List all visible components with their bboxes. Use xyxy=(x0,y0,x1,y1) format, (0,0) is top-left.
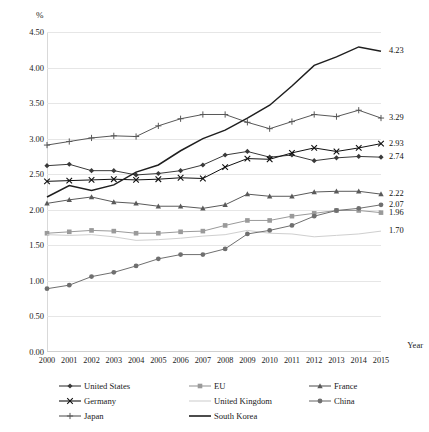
x-axis-tick-label: 2015 xyxy=(373,356,389,365)
data-point xyxy=(356,154,361,159)
x-axis-tick-label: 2011 xyxy=(284,356,300,365)
series-south-korea xyxy=(47,47,381,197)
end-value-label: 2.07 xyxy=(389,200,404,209)
data-point xyxy=(333,114,339,120)
data-point xyxy=(245,218,250,223)
data-point xyxy=(289,119,295,125)
series-eu xyxy=(45,208,384,235)
data-point xyxy=(156,256,161,261)
data-point xyxy=(134,231,139,236)
end-value-label: 3.29 xyxy=(389,113,404,122)
y-axis-tick-label: 2.50 xyxy=(29,170,44,178)
data-point xyxy=(45,286,50,291)
series-line xyxy=(47,144,381,182)
data-point xyxy=(222,164,228,170)
x-axis-tick-label: 2002 xyxy=(83,356,99,365)
legend-label: United Kingdom xyxy=(214,396,272,406)
x-axis-tick-label: 2003 xyxy=(106,356,122,365)
plot-area xyxy=(47,32,381,352)
data-point xyxy=(111,270,116,275)
data-point xyxy=(245,232,250,237)
data-point xyxy=(156,231,161,236)
data-point xyxy=(89,228,94,233)
series-france xyxy=(44,188,383,210)
data-point xyxy=(89,194,94,199)
x-axis-tick-label: 2004 xyxy=(128,356,144,365)
series-line xyxy=(47,210,381,233)
data-point xyxy=(67,412,73,418)
data-point xyxy=(178,252,183,257)
legend-item-united-kingdom[interactable]: United Kingdom xyxy=(188,396,308,406)
legend-marker-diamond-icon xyxy=(58,381,82,391)
data-point xyxy=(67,230,72,235)
series-united-kingdom xyxy=(47,230,381,240)
series-line xyxy=(47,230,381,240)
data-point xyxy=(356,107,362,113)
legend-item-japan[interactable]: Japan xyxy=(58,411,188,421)
end-value-label: 2.93 xyxy=(389,139,404,148)
data-point xyxy=(223,246,228,251)
data-point xyxy=(267,228,272,233)
data-point xyxy=(267,126,273,132)
end-value-label: 1.70 xyxy=(389,226,404,235)
y-axis-tick-label: 4.00 xyxy=(29,64,44,72)
legend-row: GermanyUnited KingdomChina xyxy=(58,393,418,408)
data-point xyxy=(88,135,94,141)
x-axis-tick-label: 2009 xyxy=(239,356,255,365)
legend-item-china[interactable]: China xyxy=(308,396,418,406)
series-line xyxy=(47,191,381,208)
y-axis-tick-label: 4.50 xyxy=(29,28,44,36)
x-axis-tick-label: 2005 xyxy=(150,356,166,365)
data-point xyxy=(89,274,94,279)
x-axis-tick-label: 2007 xyxy=(195,356,211,365)
data-point xyxy=(178,168,183,173)
y-axis-tick-label: 2.00 xyxy=(29,206,44,214)
x-axis-title: Year xyxy=(407,340,423,350)
data-point xyxy=(66,138,72,144)
y-axis-tick-label: 1.50 xyxy=(29,241,44,249)
y-axis-tick-label: 3.50 xyxy=(29,99,44,107)
data-point xyxy=(133,133,139,139)
data-point xyxy=(67,162,72,167)
x-axis-tick-label: 2000 xyxy=(39,356,55,365)
data-point xyxy=(318,398,323,403)
x-axis-tick-label: 2006 xyxy=(172,356,188,365)
x-axis-tick-label: 2008 xyxy=(217,356,233,365)
legend-marker-square-icon xyxy=(188,381,212,391)
legend-item-united-states[interactable]: United States xyxy=(58,381,188,391)
legend-item-south-korea[interactable]: South Korea xyxy=(188,411,308,421)
series-japan xyxy=(44,107,384,148)
y-axis-tick-labels: 4.504.003.503.002.502.001.501.000.500.00 xyxy=(0,0,44,432)
y-axis-tick-label: 1.00 xyxy=(29,277,44,285)
line-chart: % 4.504.003.503.002.502.001.501.000.500.… xyxy=(0,0,429,432)
legend-label: Japan xyxy=(84,411,104,421)
data-point xyxy=(156,171,161,176)
series-germany xyxy=(44,141,384,184)
legend-row: United StatesEUFrance xyxy=(58,378,418,393)
data-point xyxy=(223,223,228,228)
x-axis-tick-label: 2014 xyxy=(351,356,367,365)
legend-item-eu[interactable]: EU xyxy=(188,381,308,391)
legend-label: EU xyxy=(214,381,225,391)
data-point xyxy=(334,208,339,213)
data-point xyxy=(200,111,206,117)
data-point xyxy=(134,264,139,269)
data-point xyxy=(312,214,317,219)
legend-marker-triangle-icon xyxy=(308,381,332,391)
data-point xyxy=(290,223,295,228)
y-axis-tick-label: 0.00 xyxy=(29,348,44,356)
series-line xyxy=(47,47,381,197)
legend-label: United States xyxy=(84,381,130,391)
data-point xyxy=(178,116,184,122)
legend-row: JapanSouth Korea xyxy=(58,408,418,423)
legend-marker-line-icon xyxy=(188,396,212,406)
legend-item-germany[interactable]: Germany xyxy=(58,396,188,406)
legend-item-france[interactable]: France xyxy=(308,381,418,391)
x-axis-tick-label: 2013 xyxy=(328,356,344,365)
data-point xyxy=(267,218,272,223)
legend-label: South Korea xyxy=(214,411,257,421)
legend-label: Germany xyxy=(84,396,116,406)
legend-label: France xyxy=(334,381,357,391)
data-point xyxy=(222,111,228,117)
data-point xyxy=(112,229,117,234)
